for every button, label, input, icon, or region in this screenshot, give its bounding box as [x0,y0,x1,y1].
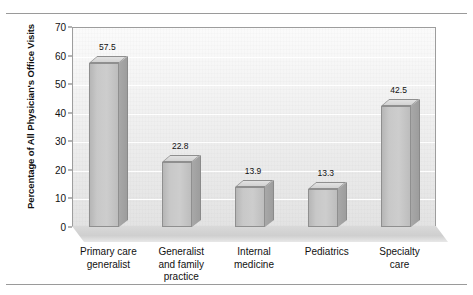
bar-front-face [89,63,119,227]
bar-front-face [308,189,338,227]
page-rule-bottom [6,284,467,285]
bar-side-face [119,56,128,227]
y-tick-label: 60 [55,50,66,61]
bar-body [235,187,265,227]
bar-body [162,162,192,227]
x-axis-category-line: Internal [218,246,291,259]
x-axis-category-line: care [363,259,436,272]
x-axis-category-line: Generalist [145,246,218,259]
y-axis-ticks: 010203040506070 [44,16,72,232]
bar-chart-figure: Percentage of All Physician's Office Vis… [0,16,473,282]
chart-floor [72,226,448,242]
bar-front-face [235,187,265,227]
bar-series: 57.522.813.913.342.5 [72,27,436,227]
x-axis-category-line: generalist [72,259,145,272]
y-tick-label: 10 [55,193,66,204]
bar-body [381,106,411,227]
bar [162,162,192,227]
bar-side-face [192,155,201,227]
bar-body [89,63,119,227]
bar-front-face [162,162,192,227]
bar-side-face [338,182,347,227]
x-axis-category-label: Primary caregeneralist [72,246,145,271]
y-tick-label: 0 [60,222,66,233]
bar [89,63,119,227]
y-tick-label: 20 [55,164,66,175]
bar [381,106,411,227]
bar [235,187,265,227]
x-axis-category-line: Pediatrics [290,246,363,259]
y-tick-label: 40 [55,107,66,118]
x-axis-category-line: and family [145,259,218,272]
bar [308,189,338,227]
x-axis-category-line: medicine [218,259,291,272]
x-axis-labels: Primary caregeneralistGeneralistand fami… [72,246,448,294]
y-axis-title: Percentage of All Physician's Office Vis… [25,12,36,222]
y-tick-label: 50 [55,79,66,90]
y-tick-label: 70 [55,22,66,33]
y-tick-label: 30 [55,136,66,147]
x-axis-category-line: practice [145,271,218,284]
bar-value-label: 42.5 [390,85,407,95]
bar-front-face [381,106,411,227]
x-axis-category-line: Specialty [363,246,436,259]
bar-side-face [265,180,274,227]
x-axis-category-label: Specialtycare [363,246,436,271]
x-axis-category-label: Internalmedicine [218,246,291,271]
chart-floor-face [72,226,448,242]
x-axis-category-label: Generalistand familypractice [145,246,218,284]
bar-side-face [411,99,420,227]
bar-value-label: 22.8 [172,141,189,151]
bar-body [308,189,338,227]
bar-value-label: 13.3 [318,168,335,178]
x-axis-category-line: Primary care [72,246,145,259]
page-rule-top [6,13,467,14]
x-axis-category-label: Pediatrics [290,246,363,259]
bar-value-label: 57.5 [99,42,116,52]
bar-value-label: 13.9 [245,166,262,176]
